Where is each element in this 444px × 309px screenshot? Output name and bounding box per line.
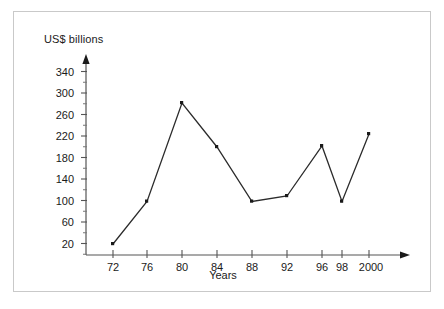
- data-point-marker: [250, 200, 253, 203]
- y-tick-label-20: 20: [34, 238, 74, 250]
- figure-frame: US$ billions: [13, 11, 431, 292]
- line-chart-svg: [14, 12, 432, 293]
- x-axis-ticks: [113, 250, 369, 258]
- data-point-marker: [180, 101, 183, 104]
- data-point-marker: [340, 200, 343, 203]
- y-tick-label-180: 180: [34, 152, 74, 164]
- data-point-marker: [367, 132, 370, 135]
- y-tick-label-60: 60: [34, 216, 74, 228]
- y-tick-label-140: 140: [34, 173, 74, 185]
- y-tick-label-220: 220: [34, 130, 74, 142]
- y-tick-label-340: 340: [34, 66, 74, 78]
- data-point-marker: [215, 145, 218, 148]
- y-axis-arrow-icon: [82, 54, 89, 64]
- x-axis-arrow-icon: [400, 251, 410, 258]
- data-point-marker: [111, 242, 114, 245]
- y-tick-label-300: 300: [34, 87, 74, 99]
- x-axis-title: Years: [14, 269, 432, 281]
- data-point-marker: [145, 200, 148, 203]
- data-series-line: [113, 103, 369, 244]
- y-tick-label-100: 100: [34, 195, 74, 207]
- y-axis-unit-label: US$ billions: [44, 33, 103, 45]
- chart-plot-area: US$ billions: [14, 12, 432, 293]
- data-point-marker: [285, 194, 288, 197]
- caption-clipped-strip: [13, 299, 431, 309]
- data-point-marker: [320, 144, 323, 147]
- y-tick-label-260: 260: [34, 109, 74, 121]
